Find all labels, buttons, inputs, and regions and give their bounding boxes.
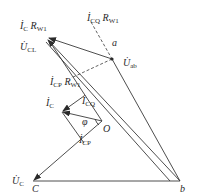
icp-rw1-dashed xyxy=(71,59,112,78)
label-icp-rw1: İCP RW1 xyxy=(49,76,81,89)
label-icq-rw1: İCQ RW1 xyxy=(86,12,119,25)
label-phi: φ xyxy=(82,116,88,127)
label-ic-rw1: İC RW1 xyxy=(19,20,47,33)
label-icq: İCQ xyxy=(81,95,95,108)
ucl-vector-2 xyxy=(46,42,170,181)
label-c: C xyxy=(32,183,39,194)
label-o: O xyxy=(103,123,110,134)
icq-vector xyxy=(63,96,84,111)
label-a: a xyxy=(112,37,117,48)
point-a xyxy=(110,57,113,60)
ucl-vector xyxy=(48,40,180,181)
label-b: b xyxy=(180,183,185,194)
uab-vector xyxy=(112,59,180,181)
label-uc: U̇C xyxy=(12,175,24,188)
uc-vector xyxy=(34,121,102,180)
label-uab: U̇ab xyxy=(123,57,137,70)
phasor-diagram: İC RW1 U̇CL İCQ RW1 a U̇ab İCP RW1 İC İC… xyxy=(0,0,198,196)
label-ucl: U̇CL xyxy=(20,41,36,54)
label-ic: İC xyxy=(45,97,54,110)
